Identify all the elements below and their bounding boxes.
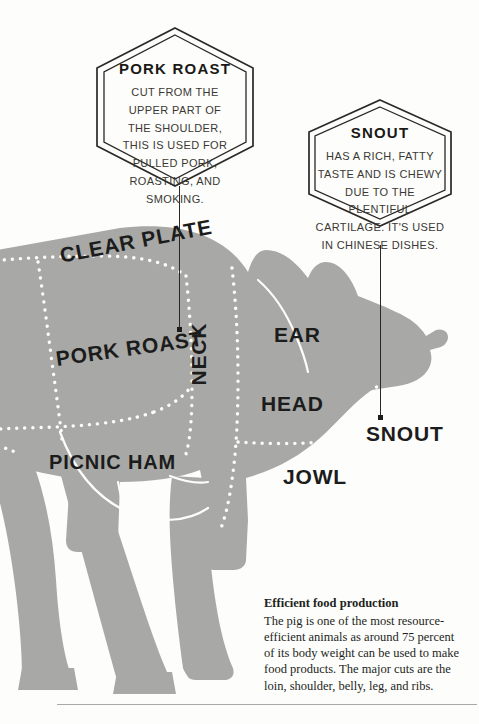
bottom-divider-rule bbox=[57, 704, 477, 705]
cut-label-jowl: JOWL bbox=[283, 466, 347, 487]
infographic-page: CLEAR PLATE PORK ROAST PICNIC HAM NECK E… bbox=[0, 0, 479, 724]
bottom-note: Efficient food production The pig is one… bbox=[264, 596, 464, 694]
leader-line-snout bbox=[380, 245, 381, 418]
bottom-note-title: Efficient food production bbox=[264, 596, 464, 612]
cut-label-picnic-ham: PICNIC HAM bbox=[49, 452, 176, 472]
callout-title-snout: SNOUT bbox=[314, 124, 446, 141]
callout-pork-roast: PORK ROAST CUT FROM THE UPPER PART OF TH… bbox=[94, 26, 256, 188]
cut-label-ear: EAR bbox=[274, 324, 321, 345]
callout-title-pork-roast: PORK ROAST bbox=[116, 60, 234, 77]
callout-snout: SNOUT HAS A RICH, FATTY TASTE AND IS CHE… bbox=[306, 98, 454, 228]
cut-label-head: HEAD bbox=[261, 393, 324, 414]
cut-label-snout: SNOUT bbox=[366, 423, 444, 444]
callout-body-pork-roast: CUT FROM THE UPPER PART OF THE SHOULDER,… bbox=[116, 84, 234, 209]
callout-body-snout: HAS A RICH, FATTY TASTE AND IS CHEWY DUE… bbox=[314, 148, 446, 255]
bottom-note-body: The pig is one of the most resource-effi… bbox=[264, 613, 464, 694]
cut-label-neck: NECK bbox=[188, 323, 209, 386]
leader-dot-pork-roast bbox=[177, 327, 182, 332]
leader-dot-snout bbox=[378, 415, 383, 420]
